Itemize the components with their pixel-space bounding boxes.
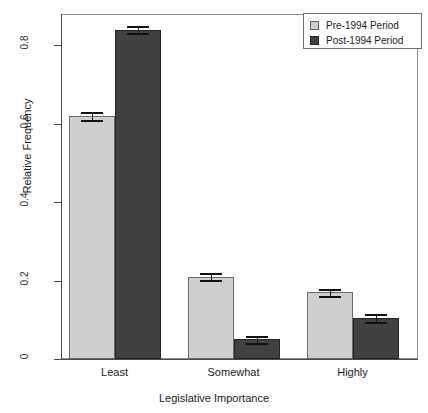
- y-axis-tick-label: 0.6: [0, 116, 50, 127]
- y-axis-tick-label: 0.4: [0, 194, 50, 205]
- y-axis-tick-mark: [54, 359, 61, 360]
- error-bar-cap-lower: [319, 296, 341, 298]
- y-axis-tick-label: 0.2: [0, 273, 50, 284]
- y-axis-tick-label: 0.8: [0, 37, 50, 48]
- bar-highly-pre-1994: [307, 292, 353, 359]
- y-axis-tick-mark: [54, 202, 61, 203]
- x-axis-category-label-somewhat: Somewhat: [208, 366, 260, 378]
- bar-least-post-1994: [115, 30, 161, 359]
- error-bar-cap-lower: [246, 343, 268, 345]
- x-axis-line: [61, 359, 418, 360]
- error-bar-cap-upper: [319, 289, 341, 291]
- x-axis-category-label-highly: Highly: [337, 366, 368, 378]
- legend-label-post-1994: Post-1994 Period: [326, 35, 403, 46]
- error-bar-cap-upper: [127, 26, 149, 28]
- y-axis-tick-mark: [54, 124, 61, 125]
- y-axis-tick-label: 0: [0, 351, 50, 362]
- legend-label-pre-1994: Pre-1994 Period: [326, 20, 399, 31]
- bar-least-pre-1994: [69, 116, 115, 359]
- bar-somewhat-pre-1994: [188, 277, 234, 359]
- legend-item-post-1994[interactable]: Post-1994 Period: [310, 33, 416, 47]
- y-axis-line: [61, 14, 62, 359]
- y-axis-tick-mark: [54, 45, 61, 46]
- error-bar-cap-upper: [365, 314, 387, 316]
- error-bar-cap-lower: [365, 322, 387, 324]
- error-bar-cap-lower: [81, 120, 103, 122]
- legend-box: Pre-1994 Period Post-1994 Period: [303, 13, 422, 49]
- error-bar-cap-upper: [246, 336, 268, 338]
- x-axis-title: Legislative Importance: [0, 392, 428, 404]
- bar-chart-figure: Relative Frequency 00.20.40.60.8 LeastSo…: [0, 0, 428, 413]
- error-bar-cap-lower: [127, 33, 149, 35]
- legend-swatch-dark-gray-square: [310, 36, 319, 45]
- legend-item-pre-1994[interactable]: Pre-1994 Period: [310, 18, 416, 32]
- x-axis-category-label-least: Least: [101, 366, 128, 378]
- error-bar-cap-upper: [200, 273, 222, 275]
- error-bar-cap-upper: [81, 112, 103, 114]
- error-bar-cap-lower: [200, 280, 222, 282]
- y-axis-tick-mark: [54, 281, 61, 282]
- legend-swatch-light-gray-square: [310, 21, 319, 30]
